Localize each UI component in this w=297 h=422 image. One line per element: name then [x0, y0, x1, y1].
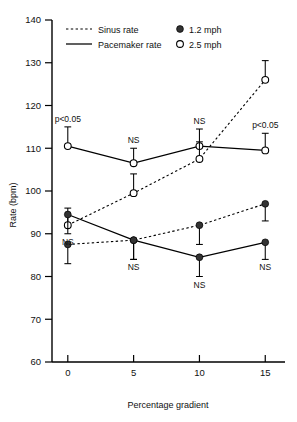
data-point-open-circle [196, 156, 203, 163]
x-axis-title: Percentage gradient [127, 400, 209, 410]
series-line [68, 146, 265, 163]
x-tick-label: 10 [194, 367, 205, 378]
y-tick-label: 80 [30, 271, 41, 282]
x-tick-label: 5 [131, 367, 136, 378]
y-tick-label: 130 [25, 57, 41, 68]
chart-legend: Sinus rate Pacemaker rate 1.2 mph 2.5 mp… [66, 25, 222, 50]
y-tick-label: 60 [30, 356, 41, 367]
significance-label-upper: p<0.05 [252, 120, 279, 130]
data-point-filled-circle [64, 211, 71, 218]
x-tick-label: 0 [65, 367, 70, 378]
data-point-filled-circle [196, 222, 203, 229]
legend-marker-open-circle [177, 41, 184, 48]
significance-label-lower: NS [259, 262, 271, 272]
series-0 [64, 127, 268, 167]
significance-label-lower: NS [128, 262, 140, 272]
y-tick-label: 70 [30, 314, 41, 325]
significance-label-upper: p<0.05 [55, 114, 82, 124]
y-tick-label: 110 [26, 143, 41, 154]
series-line [68, 204, 265, 245]
significance-label-lower: NS [194, 280, 206, 290]
y-axis-ticks: 60708090100110120130140 [25, 14, 52, 367]
x-tick-label: 15 [260, 367, 271, 378]
series-2 [64, 211, 268, 276]
data-point-filled-circle [196, 254, 203, 261]
rate-vs-gradient-line-chart: Rate (bpm) Percentage gradient 607080901… [0, 0, 297, 422]
legend-label-1-2-mph: 1.2 mph [189, 25, 222, 35]
chart-container: Rate (bpm) Percentage gradient 607080901… [0, 0, 297, 422]
significance-annotations-layer: p<0.05NSNSp<0.05NSNSNSNS [55, 114, 279, 290]
data-point-filled-circle [262, 239, 269, 246]
data-point-filled-circle [130, 237, 137, 244]
legend-label-sinus-rate: Sinus rate [98, 25, 139, 35]
series-line [68, 215, 265, 258]
data-point-open-circle [262, 76, 269, 83]
legend-label-2-5-mph: 2.5 mph [189, 40, 222, 50]
y-axis-title: Rate (bpm) [8, 182, 18, 227]
legend-label-pacemaker-rate: Pacemaker rate [98, 40, 162, 50]
data-point-open-circle [64, 143, 71, 150]
series-3 [64, 200, 268, 263]
legend-marker-filled-circle [177, 26, 184, 33]
data-point-filled-circle [262, 200, 269, 207]
significance-label-lower: NS [62, 237, 74, 247]
significance-label-upper: NS [128, 135, 140, 145]
y-tick-label: 100 [25, 185, 41, 196]
data-point-open-circle [130, 190, 137, 197]
y-tick-label: 90 [30, 228, 41, 239]
y-tick-label: 140 [25, 14, 41, 25]
series-1 [64, 61, 268, 229]
x-axis-ticks: 051015 [65, 355, 270, 378]
series-line [68, 80, 265, 225]
data-point-open-circle [130, 160, 137, 167]
data-point-open-circle [262, 147, 269, 154]
data-series-layer [64, 61, 268, 277]
y-tick-label: 120 [25, 100, 41, 111]
significance-label-upper: NS [194, 116, 206, 126]
